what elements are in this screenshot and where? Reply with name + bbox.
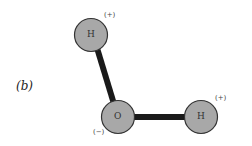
charge-h2: (+) — [215, 94, 226, 102]
bond-h1-o — [97, 48, 114, 104]
atom-o-symbol: O — [114, 111, 121, 121]
atom-h1-symbol: H — [87, 29, 95, 39]
charge-h1: (+) — [104, 11, 115, 19]
atom-h2-symbol: H — [197, 111, 205, 121]
panel-label: (b) — [16, 79, 33, 93]
water-molecule-diagram — [0, 0, 252, 146]
charge-o: (−) — [93, 128, 104, 136]
